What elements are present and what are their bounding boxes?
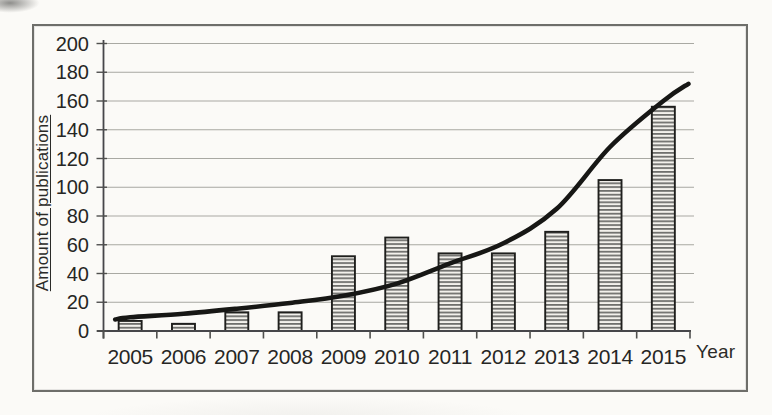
y-tick-label-20: 20 xyxy=(67,291,89,313)
bar-2005 xyxy=(119,321,142,331)
bar-2015 xyxy=(652,107,675,331)
scanned-chart-figure: 0204060801001201401601802002005200620072… xyxy=(0,0,772,415)
y-tick-label-0: 0 xyxy=(78,320,89,342)
y-tick-label-60: 60 xyxy=(67,234,89,256)
x-axis-title: Year xyxy=(696,341,735,363)
y-tick-label-80: 80 xyxy=(67,205,89,227)
x-tick-label-2015: 2015 xyxy=(641,345,687,368)
y-tick-label-160: 160 xyxy=(56,90,89,112)
bar-2008 xyxy=(279,312,302,331)
y-tick-label-140: 140 xyxy=(56,119,89,141)
y-tick-label-120: 120 xyxy=(56,148,89,170)
x-tick-label-2011: 2011 xyxy=(428,345,472,368)
y-tick-label-100: 100 xyxy=(56,176,89,198)
x-tick-label-2006: 2006 xyxy=(161,345,207,368)
x-tick-label-2007: 2007 xyxy=(214,345,260,368)
bar-2007 xyxy=(225,312,248,331)
y-tick-label-200: 200 xyxy=(56,33,89,55)
x-tick-label-2010: 2010 xyxy=(374,345,420,368)
bar-2012 xyxy=(492,253,515,331)
x-tick-label-2008: 2008 xyxy=(267,345,313,368)
bar-2014 xyxy=(599,180,622,331)
x-tick-label-2012: 2012 xyxy=(481,345,527,368)
x-tick-label-2005: 2005 xyxy=(107,345,153,368)
y-axis-title: Amount of publications xyxy=(33,88,55,318)
publications-bar-chart: 0204060801001201401601802002005200620072… xyxy=(0,0,772,415)
x-tick-label-2013: 2013 xyxy=(534,345,580,368)
x-tick-label-2014: 2014 xyxy=(587,345,633,368)
bar-2013 xyxy=(545,232,568,331)
y-tick-label-180: 180 xyxy=(56,61,89,83)
x-tick-label-2009: 2009 xyxy=(321,345,367,368)
bar-series xyxy=(119,107,675,331)
y-tick-label-40: 40 xyxy=(67,263,89,285)
